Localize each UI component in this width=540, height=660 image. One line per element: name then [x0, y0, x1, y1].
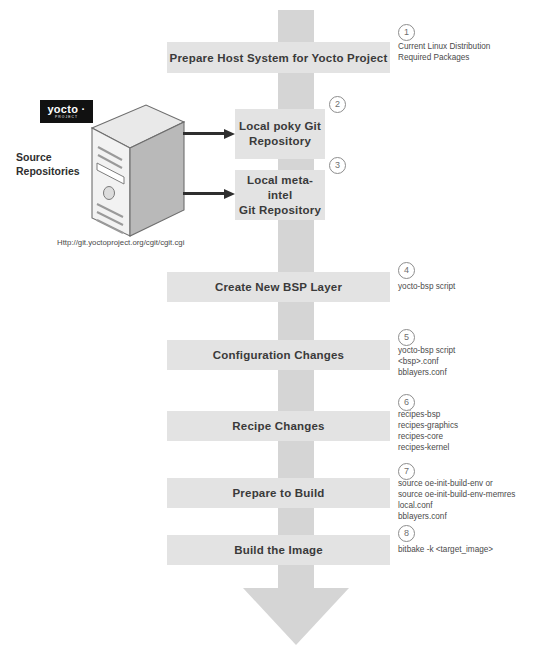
- flow-arrowhead-icon: [243, 588, 349, 645]
- annotation-line: Current Linux Distribution: [398, 41, 538, 52]
- annotation-line: <bsp>.conf: [398, 356, 538, 367]
- annotation-step-4: yocto-bsp script: [398, 281, 538, 292]
- process-box-label: Configuration Changes: [213, 349, 344, 361]
- process-box-prepare-to-build[interactable]: Prepare to Build: [167, 478, 390, 508]
- process-box-label-line1: Local poky Git: [239, 119, 321, 134]
- annotation-line: local.conf: [398, 500, 538, 511]
- process-box-label: Build the Image: [234, 544, 323, 556]
- process-box-label: Recipe Changes: [232, 420, 324, 432]
- annotation-step-7: source oe-init-build-env or source oe-in…: [398, 478, 538, 522]
- process-box-recipe-changes[interactable]: Recipe Changes: [167, 411, 390, 441]
- step-number-3: 3: [329, 157, 346, 174]
- process-box-label: Prepare to Build: [232, 487, 324, 499]
- source-repository-url: Http://git.yoctoproject.org/cgit/cgit.cg…: [57, 238, 184, 247]
- server-tower-icon: [88, 100, 188, 244]
- step-number-1: 1: [398, 24, 415, 41]
- step-number-2: 2: [329, 96, 346, 113]
- process-box-label-line1: Local meta-intel: [235, 173, 325, 203]
- logo-subtitle: PROJECT: [55, 115, 78, 120]
- process-box-label: Prepare Host System for Yocto Project: [170, 52, 388, 64]
- process-box-configuration-changes[interactable]: Configuration Changes: [167, 340, 390, 370]
- annotation-step-5: yocto-bsp script <bsp>.conf bblayers.con…: [398, 345, 538, 378]
- annotation-line: bblayers.conf: [398, 511, 538, 522]
- annotation-line: source oe-init-build-env-memres: [398, 489, 538, 500]
- process-box-build-the-image[interactable]: Build the Image: [167, 535, 390, 565]
- annotation-step-1: Current Linux Distribution Required Pack…: [398, 41, 538, 63]
- annotation-step-8: bitbake -k <target_image>: [398, 544, 538, 555]
- arrow-to-poky-repo-icon: [183, 130, 235, 137]
- step-number-4: 4: [398, 262, 415, 279]
- process-box-label: Create New BSP Layer: [215, 281, 342, 293]
- process-box-prepare-host[interactable]: Prepare Host System for Yocto Project: [167, 42, 390, 73]
- step-number-5: 5: [398, 329, 415, 346]
- annotation-line: recipes-kernel: [398, 442, 538, 453]
- process-box-label-line2: Repository: [239, 134, 321, 149]
- annotation-line: recipes-bsp: [398, 409, 538, 420]
- annotation-line: bblayers.conf: [398, 367, 538, 378]
- annotation-line: bitbake -k <target_image>: [398, 544, 538, 555]
- annotation-line: yocto-bsp script: [398, 345, 538, 356]
- step-number-8: 8: [398, 525, 415, 542]
- annotation-line: Required Packages: [398, 52, 538, 63]
- process-box-label-line2: Git Repository: [235, 203, 325, 218]
- process-box-local-poky-repo[interactable]: Local poky Git Repository: [235, 109, 325, 159]
- arrow-to-meta-intel-repo-icon: [183, 190, 235, 197]
- annotation-line: yocto-bsp script: [398, 281, 538, 292]
- annotation-line: recipes-graphics: [398, 420, 538, 431]
- yocto-project-logo: yocto · PROJECT: [40, 100, 93, 123]
- diagram-canvas: Prepare Host System for Yocto Project 1 …: [0, 0, 540, 660]
- annotation-line: source oe-init-build-env or: [398, 478, 538, 489]
- annotation-step-6: recipes-bsp recipes-graphics recipes-cor…: [398, 409, 538, 453]
- process-box-create-bsp-layer[interactable]: Create New BSP Layer: [167, 272, 390, 302]
- logo-wordmark: yocto ·: [47, 104, 85, 115]
- annotation-line: recipes-core: [398, 431, 538, 442]
- process-box-local-meta-intel-repo[interactable]: Local meta-intel Git Repository: [235, 170, 325, 220]
